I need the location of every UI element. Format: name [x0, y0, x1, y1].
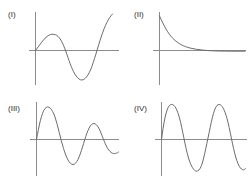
panel-3-label: (III)	[8, 104, 20, 113]
panel-4-label: (IV)	[134, 104, 147, 113]
curve-exponential-decay	[160, 16, 246, 51]
plot-panel-3: (III)	[0, 94, 125, 187]
plot-2-svg	[126, 0, 251, 93]
plot-panel-2: (II)	[126, 0, 251, 93]
plot-panel-4: (IV)	[126, 94, 251, 187]
curve-growing-sinusoid	[36, 14, 113, 80]
panel-2-label: (II)	[134, 10, 144, 19]
figure-canvas: (I) (II) (III) (IV)	[0, 0, 251, 187]
panel-1-label: (I)	[8, 10, 16, 19]
plot-panel-1: (I)	[0, 0, 125, 93]
plot-1-svg	[0, 0, 125, 93]
curve-damped-oscillation	[37, 107, 119, 165]
curve-steady-sinusoid	[162, 104, 246, 171]
